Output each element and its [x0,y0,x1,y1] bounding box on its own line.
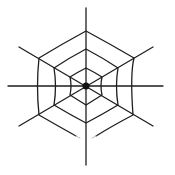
spider-web-image [0,0,175,175]
web-hub [83,83,90,90]
spider-web-icon [0,0,175,175]
web-faint-segment [92,136,96,138]
web-faint-segment [76,136,80,138]
